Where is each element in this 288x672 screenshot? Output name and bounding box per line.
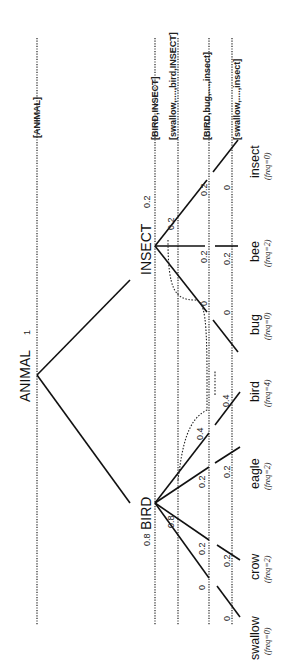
edge-bird-crow (155, 503, 209, 540)
leaf-crow: crow (248, 553, 262, 580)
edge-insect-bug-2 (213, 320, 238, 352)
category-bird-prob: 0.8 (142, 533, 152, 546)
edge-animal-insect (37, 280, 130, 375)
level-label-bird-bug-insect: [BIRD,bug,....,insect] (202, 52, 212, 140)
leaf-bee: bee (248, 241, 262, 262)
value-l4-crow: 0.2 (222, 554, 232, 567)
value-l2-bird: 0.8 (166, 515, 176, 528)
edge-insect-insect-2 (213, 140, 238, 172)
leaf-bug: bug (248, 314, 262, 335)
value-l3-bee: 0.2 (199, 250, 209, 263)
leaf-eagle-freq: (freq=2) (263, 462, 272, 490)
leaf-insect: insect (248, 145, 262, 178)
edge-bird-bird (155, 433, 209, 503)
value-l3-swallow: 0 (197, 585, 207, 590)
root-label: ANIMAL (17, 350, 33, 402)
root-prob: 1 (22, 330, 32, 335)
leaf-bird: bird (248, 381, 262, 402)
level-label-swallow-insect: [swallow,....,insect] (232, 59, 242, 140)
value-l3-insect: 0.2 (199, 183, 209, 196)
value-l4-bee: 0.2 (222, 252, 232, 265)
level-label-animal: [ANIMAL] (32, 97, 42, 138)
leaf-insect-freq: (freq=0) (263, 152, 272, 180)
tree-diagram: ANIMAL 1 BIRD 0.8 INSECT 0.2 0.8 0.2 0 0… (0, 0, 288, 672)
value-l3-eagle: 0.2 (197, 475, 207, 488)
edge-bird-swallow (155, 503, 209, 578)
value-l4-insect: 0 (222, 185, 232, 190)
leaf-eagle: eagle (248, 458, 262, 489)
value-l3-bird: 0.4 (195, 427, 205, 440)
value-l3-bug: 0 (199, 301, 209, 306)
leaf-bee-freq: (freq=2) (263, 239, 272, 267)
value-l4-eagle: 0.2 (222, 465, 232, 478)
edge-bird-eagle-2 (215, 447, 240, 463)
level-label-swallow-bird-insect: [swallow,....,bird,INSECT] (168, 32, 178, 140)
edge-bird-swallow-2 (217, 586, 240, 617)
cut-curve-1 (168, 240, 207, 400)
category-bird-label: BIRD (138, 497, 154, 530)
value-l2-insect: 0.2 (166, 217, 176, 230)
level-label-bird-insect: [BIRD,INSECT] (150, 77, 160, 141)
value-l4-bug: 0 (222, 310, 232, 315)
leaf-swallow-freq: (freq=0) (263, 627, 272, 655)
value-l3-crow: 0.2 (197, 542, 207, 555)
value-l4-bird: 0.4 (221, 394, 231, 407)
category-insect-label: INSECT (138, 223, 154, 275)
leaf-crow-freq: (freq=2) (263, 555, 272, 583)
leaf-bird-freq: (freq=4) (263, 379, 272, 407)
edge-animal-bird (37, 375, 130, 503)
value-l4-swallow: 0 (222, 616, 232, 621)
leaf-bug-freq: (freq=0) (263, 312, 272, 340)
leaf-swallow: swallow (248, 615, 262, 660)
category-insect-prob: 0.2 (142, 195, 152, 208)
